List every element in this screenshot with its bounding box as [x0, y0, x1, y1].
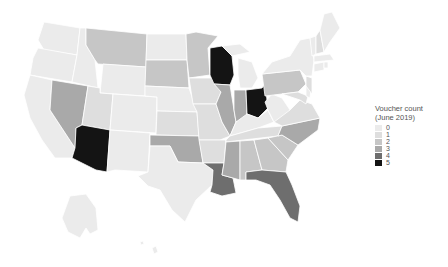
state-RI — [324, 62, 328, 68]
legend-item: 5 — [375, 159, 423, 166]
legend-swatch — [375, 160, 382, 166]
state-CT — [314, 62, 324, 72]
legend-swatch — [375, 139, 382, 145]
state-FL — [246, 170, 300, 222]
legend-item: 2 — [375, 138, 423, 145]
legend-item: 3 — [375, 145, 423, 152]
state-NY — [262, 38, 314, 76]
state-CO — [110, 94, 157, 133]
states-layer — [24, 12, 340, 254]
legend-title-line1: Voucher count — [375, 104, 423, 113]
state-WY — [100, 64, 146, 96]
state-SD — [145, 60, 189, 88]
legend-item: 0 — [375, 124, 423, 131]
legend-label: 5 — [386, 159, 390, 166]
legend-swatch — [375, 146, 382, 152]
state-KS — [156, 111, 199, 136]
legend-item: 1 — [375, 131, 423, 138]
legend-title: Voucher count (June 2019) — [375, 104, 423, 122]
state-NM — [107, 130, 150, 172]
legend-items: 0 1 2 3 4 5 — [375, 124, 423, 166]
state-ME — [320, 12, 340, 52]
legend-label: 2 — [386, 138, 390, 145]
state-HI — [140, 241, 158, 254]
legend-item: 4 — [375, 152, 423, 159]
state-PA — [262, 70, 306, 96]
legend-swatch — [375, 132, 382, 138]
legend-label: 4 — [386, 152, 390, 159]
state-AR — [199, 140, 226, 163]
legend-swatch — [375, 153, 382, 159]
state-ND — [146, 34, 187, 60]
state-AK — [62, 194, 98, 238]
map-legend: Voucher count (June 2019) 0 1 2 3 4 5 — [375, 104, 423, 166]
legend-title-line2: (June 2019) — [375, 113, 423, 122]
state-AZ — [72, 125, 110, 172]
legend-label: 0 — [386, 124, 390, 131]
legend-label: 1 — [386, 131, 390, 138]
legend-swatch — [375, 125, 382, 131]
state-MA — [314, 54, 334, 62]
state-MD — [282, 92, 308, 104]
legend-label: 3 — [386, 145, 390, 152]
